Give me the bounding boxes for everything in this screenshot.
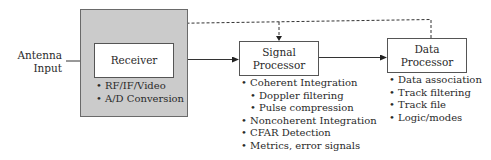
list-item: Noncoherent Integration xyxy=(241,115,377,128)
data-processor-title-line1: Data xyxy=(414,43,439,56)
antenna-input-label: Antenna Input xyxy=(6,49,62,74)
list-item: CFAR Detection xyxy=(241,127,377,140)
list-item: Track filtering xyxy=(389,87,482,100)
list-item: Coherent Integration xyxy=(241,77,377,90)
receiver-block: Receiver xyxy=(94,43,174,78)
data-processor-title-line2: Processor xyxy=(401,56,454,69)
list-item: RF/IF/Video xyxy=(96,80,184,93)
list-item: Pulse compression xyxy=(250,102,377,115)
signal-processor-title-line1: Signal xyxy=(262,46,296,59)
list-item: Track file xyxy=(389,99,482,112)
signal-processor-block: Signal Processor xyxy=(239,41,319,76)
list-item: Logic/modes xyxy=(389,112,482,125)
signal-processor-title-line2: Processor xyxy=(253,59,306,72)
receiver-title: Receiver xyxy=(111,54,158,67)
list-item: A/D Conversion xyxy=(96,93,184,106)
receiver-function-list: RF/IF/Video A/D Conversion xyxy=(96,80,184,105)
data-processor-block: Data Processor xyxy=(387,38,467,73)
list-item: Metrics, error signals xyxy=(241,140,377,153)
signal-processor-function-list: Coherent Integration Doppler filtering P… xyxy=(241,77,377,153)
antenna-label-line2: Input xyxy=(6,62,62,75)
antenna-label-line1: Antenna xyxy=(6,49,62,62)
list-item: Doppler filtering xyxy=(250,90,377,103)
data-processor-function-list: Data association Track filtering Track f… xyxy=(389,74,482,124)
list-item: Data association xyxy=(389,74,482,87)
